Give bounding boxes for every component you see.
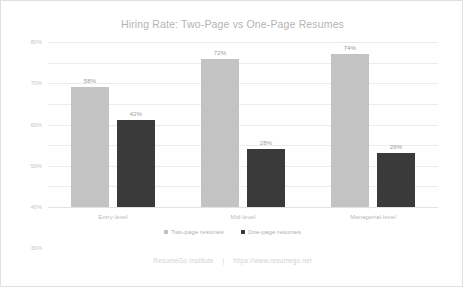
- bar-value-label: 28%: [260, 140, 272, 146]
- chart-legend: Two-page resumesOne-page resumes: [1, 229, 463, 235]
- y-axis-tick-label: 50%: [31, 163, 42, 169]
- bar[interactable]: 72%: [201, 59, 239, 208]
- bar-group: 58%42%Entry-level: [71, 42, 155, 207]
- x-axis-category-label: Managerial-level: [350, 214, 396, 220]
- legend-item[interactable]: One-page resumes: [241, 229, 301, 235]
- legend-swatch-icon: [164, 230, 168, 234]
- bar-value-label: 72%: [214, 50, 226, 56]
- legend-label: One-page resumes: [248, 229, 301, 235]
- y-axis-tick-label: 70%: [31, 80, 42, 86]
- x-axis-category-label: Mid-level: [231, 214, 256, 220]
- bar[interactable]: 26%: [377, 153, 415, 207]
- y-axis-tick-label: 60%: [31, 122, 42, 128]
- y-axis-tick-label: 30%: [31, 245, 42, 251]
- gridline: 0%: [48, 207, 438, 208]
- x-axis-category-label: Entry-level: [98, 214, 127, 220]
- bar-value-label: 74%: [344, 45, 356, 51]
- bar-value-label: 26%: [390, 144, 402, 150]
- plot-area: 0%10%20%30%40%50%60%70%80%58%42%Entry-le…: [48, 42, 438, 207]
- bar-group: 74%26%Managerial-level: [331, 42, 415, 207]
- bar-group: 72%28%Mid-level: [201, 42, 285, 207]
- bar[interactable]: 28%: [247, 149, 285, 207]
- bar[interactable]: 42%: [117, 120, 155, 207]
- chart-footer: ResumeGo Institute | https://www.resumeg…: [1, 257, 463, 264]
- footer-source: ResumeGo Institute: [153, 257, 213, 264]
- bar[interactable]: 58%: [71, 87, 109, 207]
- y-axis-tick-label: 80%: [31, 39, 42, 45]
- bar[interactable]: 74%: [331, 54, 369, 207]
- legend-item[interactable]: Two-page resumes: [164, 229, 224, 235]
- y-axis-tick-label: 40%: [31, 204, 42, 210]
- footer-url: https://www.resumego.net: [233, 257, 311, 264]
- legend-swatch-icon: [241, 230, 245, 234]
- chart-card: Hiring Rate: Two-Page vs One-Page Resume…: [0, 0, 463, 287]
- footer-separator: |: [222, 257, 224, 264]
- bar-value-label: 42%: [130, 111, 142, 117]
- legend-label: Two-page resumes: [171, 229, 224, 235]
- chart-title: Hiring Rate: Two-Page vs One-Page Resume…: [1, 18, 463, 30]
- bar-value-label: 58%: [84, 78, 96, 84]
